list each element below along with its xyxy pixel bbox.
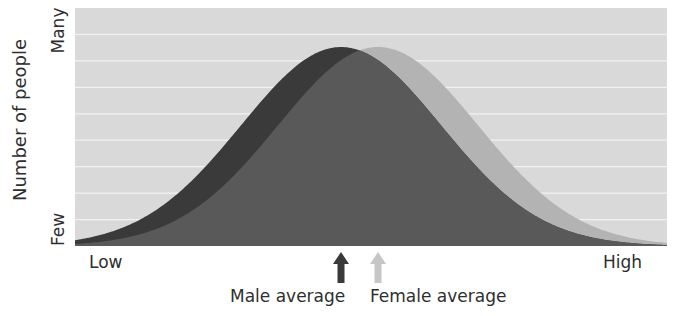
female-average-label: Female average — [370, 288, 506, 305]
y-axis-tick-few: Few — [50, 210, 67, 250]
male-average-label: Male average — [230, 288, 345, 305]
male-average-arrow-icon — [333, 252, 349, 283]
y-axis-tick-many: Many — [50, 6, 67, 56]
x-axis-tick-high: High — [603, 254, 642, 271]
y-axis-label: Number of people — [11, 51, 29, 201]
female-average-arrow-icon — [370, 252, 386, 283]
x-axis-tick-low: Low — [89, 254, 122, 271]
